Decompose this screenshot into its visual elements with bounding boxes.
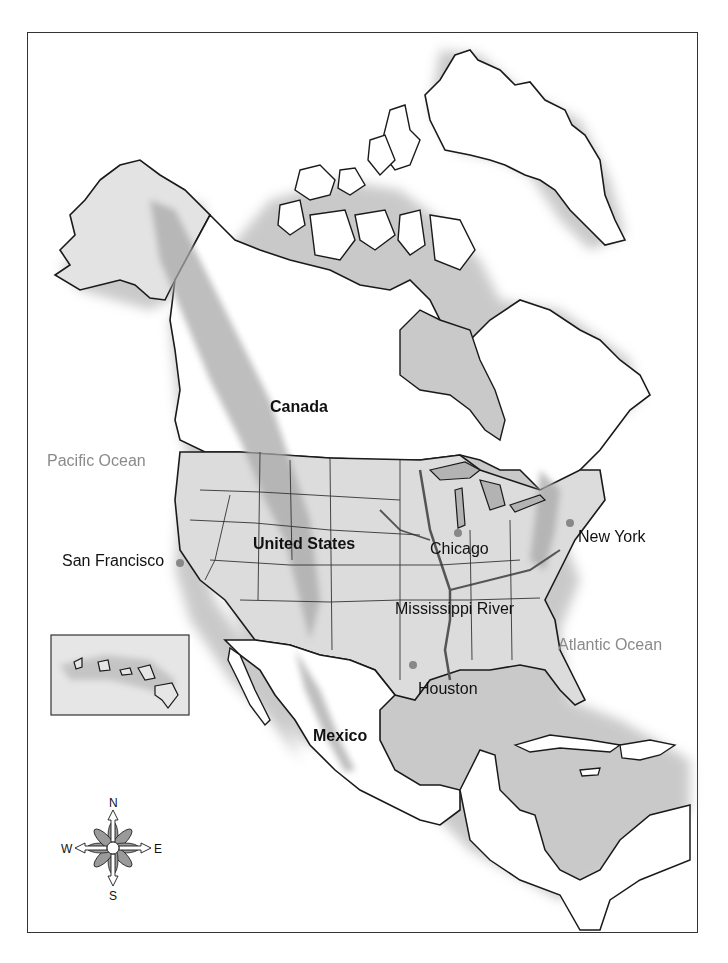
label-pacific-ocean: Pacific Ocean xyxy=(47,452,146,470)
greenland xyxy=(425,50,625,245)
label-houston: Houston xyxy=(418,680,478,698)
label-mexico: Mexico xyxy=(313,727,367,745)
north-america-map xyxy=(0,0,728,963)
san-francisco-dot xyxy=(176,559,184,567)
hawaii-inset xyxy=(51,635,189,715)
new-york-dot xyxy=(566,519,574,527)
label-atlantic-ocean: Atlantic Ocean xyxy=(558,636,662,654)
compass-west: W xyxy=(61,842,72,856)
label-united-states: United States xyxy=(253,535,355,553)
chicago-dot xyxy=(454,529,462,537)
label-chicago: Chicago xyxy=(430,540,489,558)
label-new-york: New York xyxy=(578,528,646,546)
compass-south: S xyxy=(109,889,117,903)
compass-east: E xyxy=(154,842,162,856)
label-canada: Canada xyxy=(270,398,328,416)
label-mississippi-river: Mississippi River xyxy=(395,600,514,618)
houston-dot xyxy=(409,661,417,669)
compass-rose xyxy=(75,810,151,886)
label-san-francisco: San Francisco xyxy=(62,552,164,570)
compass-north: N xyxy=(109,796,118,810)
